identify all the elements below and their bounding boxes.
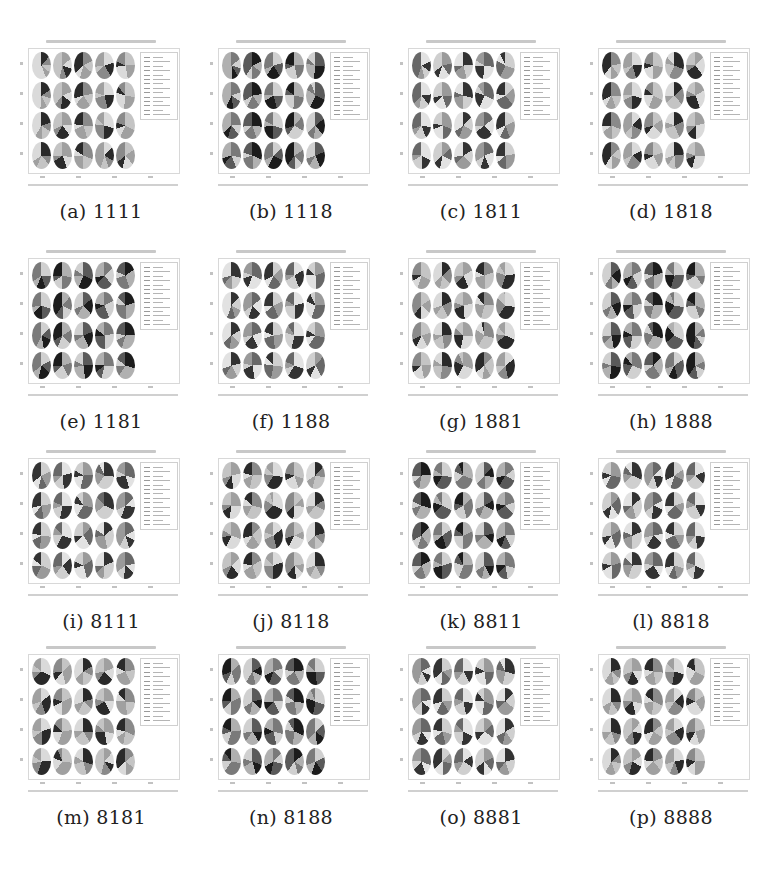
legend-entry-text	[343, 285, 353, 286]
pie-chart	[496, 52, 515, 79]
legend-entry-text	[153, 271, 170, 272]
legend-swatch	[144, 101, 150, 102]
pie-chart	[243, 352, 262, 379]
x-tick-label	[302, 176, 307, 178]
legend-swatch	[334, 493, 340, 494]
y-tick-label	[210, 472, 213, 475]
pie-chart	[686, 82, 705, 109]
pie-chart	[116, 262, 135, 289]
legend-swatch	[144, 480, 150, 481]
legend-swatch	[524, 707, 530, 708]
subfigure-caption: (o) 8881	[386, 806, 576, 828]
legend-swatch	[144, 311, 150, 312]
legend-entry-text	[343, 694, 360, 695]
pie-chart	[475, 552, 494, 579]
pie-chart	[243, 492, 262, 519]
pie-chart	[74, 462, 93, 489]
plot-title	[616, 646, 726, 649]
pie-chart	[433, 142, 452, 169]
subfigure-caption: (p) 8888	[576, 806, 766, 828]
pie-chart	[222, 748, 241, 775]
legend-entry-text	[533, 703, 550, 704]
x-tick-label	[40, 586, 45, 588]
y-tick-label	[590, 332, 593, 335]
legend-entry-text	[533, 720, 550, 721]
legend-entry-text	[153, 320, 163, 321]
legend-swatch	[334, 485, 340, 486]
pie-chart	[412, 82, 431, 109]
legend-swatch	[714, 711, 720, 712]
legend-entry-text	[723, 66, 733, 67]
legend-entry-text	[343, 61, 360, 62]
legend-swatch	[334, 83, 340, 84]
x-axis-label	[598, 184, 748, 186]
legend-entry-text	[153, 515, 170, 516]
legend-entry-text	[343, 307, 360, 308]
pie-grid-plot	[208, 248, 378, 408]
legend	[710, 462, 748, 530]
legend-swatch	[334, 101, 340, 102]
legend-entry-text	[343, 280, 360, 281]
legend-swatch	[714, 320, 720, 321]
legend-entry-text	[153, 703, 170, 704]
legend-swatch	[334, 471, 340, 472]
pie-chart	[686, 52, 705, 79]
pie-chart	[243, 112, 262, 139]
y-tick-label	[590, 472, 593, 475]
pie-chart	[475, 112, 494, 139]
pie-chart	[285, 492, 304, 519]
legend-entry-text	[723, 672, 733, 673]
legend-swatch	[524, 471, 530, 472]
legend-swatch	[524, 285, 530, 286]
pie-chart	[264, 492, 283, 519]
plot-title	[616, 450, 726, 453]
legend-swatch	[144, 88, 150, 89]
y-tick-label	[590, 152, 593, 155]
legend-swatch	[144, 66, 150, 67]
pie-chart	[264, 688, 283, 715]
legend-entry-text	[533, 105, 550, 106]
pie-chart	[243, 462, 262, 489]
legend-entry-text	[723, 720, 740, 721]
pie-chart	[475, 142, 494, 169]
y-tick-label	[400, 332, 403, 335]
legend-entry-text	[343, 276, 353, 277]
legend-swatch	[334, 489, 340, 490]
pie-chart	[475, 748, 494, 775]
y-tick-label	[20, 502, 23, 505]
legend-swatch	[334, 711, 340, 712]
legend-swatch	[524, 524, 530, 525]
legend-entry-text	[343, 511, 353, 512]
legend-entry-text	[343, 676, 360, 677]
pie-chart	[602, 142, 621, 169]
plot-title	[426, 450, 536, 453]
legend-entry-text	[343, 110, 353, 111]
pie-chart	[74, 718, 93, 745]
pie-chart	[222, 552, 241, 579]
legend-swatch	[524, 507, 530, 508]
legend-swatch	[144, 502, 150, 503]
legend-swatch	[714, 672, 720, 673]
legend-entry-text	[533, 88, 550, 89]
x-tick-label	[718, 586, 723, 588]
x-axis-label	[598, 394, 748, 396]
legend-entry-text	[153, 485, 163, 486]
pie-chart	[264, 748, 283, 775]
pie-chart	[644, 112, 663, 139]
legend-entry-text	[533, 97, 550, 98]
subfigure-caption: (m) 8181	[6, 806, 196, 828]
y-tick-label	[20, 332, 23, 335]
legend-entry-text	[533, 101, 543, 102]
y-tick-label	[20, 668, 23, 671]
legend-entry-text	[153, 711, 170, 712]
legend-swatch	[714, 302, 720, 303]
y-tick-label	[400, 302, 403, 305]
x-tick-label	[338, 782, 343, 784]
legend-swatch	[144, 467, 150, 468]
y-tick-label	[400, 668, 403, 671]
legend-entry-text	[723, 110, 733, 111]
legend-swatch	[714, 61, 720, 62]
legend-swatch	[524, 276, 530, 277]
legend-entry-text	[343, 685, 360, 686]
y-tick-label	[20, 698, 23, 701]
